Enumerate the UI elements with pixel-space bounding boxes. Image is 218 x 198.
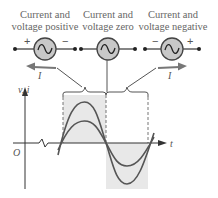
minus-sign: − [152, 35, 158, 47]
brace-negative [106, 87, 148, 97]
ac-waveform-diagram: + − − + I I [0, 0, 218, 198]
plus-sign: + [187, 35, 193, 47]
current-label-1: I [37, 70, 42, 81]
origin-label: O [13, 147, 20, 158]
ac-source-negative: − + [143, 35, 201, 71]
leader-line-1 [57, 68, 82, 87]
leader-line-3 [128, 68, 156, 87]
minus-sign: − [62, 35, 68, 47]
current-arrow-right-icon [158, 63, 187, 71]
x-axis-label: t [170, 138, 173, 149]
y-axis-label: v, i [18, 84, 30, 95]
ac-source-positive: + − [13, 35, 77, 71]
current-label-3: I [167, 70, 172, 81]
x-axis-arrow-icon [158, 140, 167, 146]
plus-sign: + [24, 35, 30, 47]
ac-source-zero [79, 38, 137, 60]
